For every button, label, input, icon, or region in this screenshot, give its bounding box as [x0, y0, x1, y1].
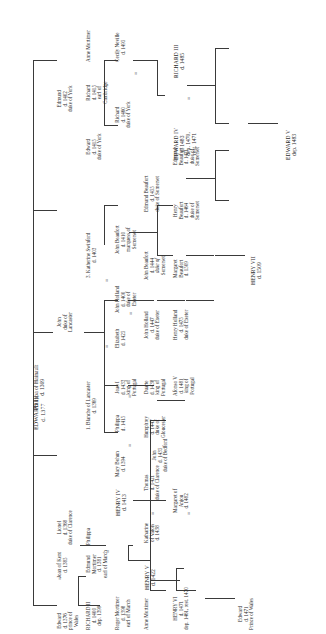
connector	[33, 60, 34, 210]
person-title: Exeter	[132, 286, 138, 313]
person-edmund-duke-of-york: Edmund d. 1402 duke of York	[57, 86, 74, 112]
person-name: Anne Mortimer	[144, 598, 150, 630]
person-john-of-gaunt: John duke of Lancaster	[57, 312, 74, 332]
connector	[33, 455, 57, 456]
person-anne-mortimer: Anne Mortimer	[144, 598, 150, 630]
connector	[80, 545, 106, 546]
person-margaret-beaufort: Margaret Beaufort d. 1509	[173, 259, 190, 278]
marriage-sign: =	[133, 72, 139, 75]
connector	[150, 500, 166, 501]
person-title: earl of March	[126, 597, 132, 630]
connector	[215, 150, 229, 151]
person-dates: d. 1403	[92, 233, 98, 278]
connector	[157, 205, 158, 255]
marriage-sign: =	[104, 279, 110, 282]
person-title: duke of Clarence	[68, 510, 74, 545]
person-dates: d. 1485	[179, 45, 185, 78]
connector	[33, 455, 34, 605]
person-dates: d. 1495	[121, 32, 127, 62]
connector	[133, 60, 157, 61]
connector	[176, 568, 184, 569]
person-title: duke of Exeter	[155, 310, 161, 340]
connector	[133, 500, 150, 501]
person-title: duke of York	[68, 86, 74, 112]
person-richard-ii: RICHARD II d. 1400 dep. 1399	[86, 601, 103, 630]
person-dates: dep. 1461, rest. 1470	[184, 587, 190, 630]
person-title: Gloucester	[161, 416, 167, 438]
connector	[186, 178, 215, 179]
person-title: Somerset	[132, 225, 138, 254]
person-katherine-swinford: 3. Katherine Swinford d. 1403	[86, 233, 97, 278]
person-title: duke of York	[97, 134, 103, 160]
connector	[33, 332, 53, 333]
person-title: Portugal	[132, 379, 138, 396]
person-title: Lancaster	[68, 312, 74, 332]
connector	[150, 590, 166, 591]
connector	[215, 255, 245, 256]
person-dates: d. 1422	[150, 565, 156, 590]
person-name: Philippa	[86, 528, 92, 545]
person-dates: dep. 1399	[97, 601, 103, 630]
person-john-holland-d1447: John Holland d. 1447 duke of Exeter	[144, 310, 161, 340]
connector	[78, 576, 79, 605]
person-anne-mortimer-york: Anne Mortimer	[86, 30, 92, 62]
marriage-sign: =	[186, 97, 192, 100]
connector	[33, 60, 57, 61]
connector	[157, 95, 165, 96]
connector	[186, 300, 214, 301]
person-richard-earl-of-cambridge: Richard d. 1415 earl of Cambridge	[86, 81, 108, 104]
connector	[248, 123, 278, 124]
person-title: Wales	[74, 612, 80, 630]
connector	[215, 200, 229, 201]
person-dates: d. 1438	[155, 523, 161, 543]
person-dates: dep. 1483	[291, 130, 297, 160]
person-title: Somerset	[161, 251, 167, 280]
connector	[128, 560, 150, 561]
person-dates: d. 1509	[184, 259, 190, 278]
person-katharine-of-valois: Katharine of Valois d. 1438	[144, 523, 161, 543]
connector	[215, 48, 216, 123]
person-joao-i: Joao I d. 1433 king of Portugal	[115, 379, 137, 396]
connector	[33, 605, 57, 606]
marriage-sign: =	[104, 345, 110, 348]
person-joan-of-kent: Joan of Kent d. 1385	[57, 552, 68, 578]
person-john-beaufort-duke: John Beaufort d. 1444 duke of Somerset	[144, 251, 166, 280]
connector	[84, 332, 104, 333]
person-title: duke of York	[126, 102, 132, 128]
person-henry-vii: HENRY VII d. 1509	[250, 256, 262, 285]
person-title: Cambridge	[103, 81, 109, 104]
person-title: Portugal	[190, 376, 196, 396]
person-dates: d. 1394	[121, 451, 127, 477]
person-edmund-beaufort-d1471: Edmund Beaufort d. 1471 duke of Somerset	[173, 147, 201, 166]
connector	[205, 598, 235, 599]
person-richard-duke-of-york: Richard d. 1460 duke of York	[115, 102, 132, 128]
connector	[104, 205, 118, 206]
person-elizabeth-of-lancaster: Elizabeth d. 1425	[115, 329, 126, 348]
person-edward-v: EDWARD V dep. 1483	[285, 130, 297, 160]
person-title: Somerset	[195, 201, 201, 220]
person-edward-black-prince: Edward d. 1376 prince of Wales	[57, 612, 79, 630]
person-title: duke of Somerset	[155, 176, 161, 212]
person-title: duke of Bedford	[163, 439, 169, 472]
connector	[215, 150, 216, 200]
connector	[104, 432, 118, 433]
family-tree-diagram: = = = = = = = = = = = = EDWARD III d. 13…	[0, 0, 326, 634]
person-philippa-of-clarence: Philippa	[86, 528, 92, 545]
marriage-sign: =	[150, 512, 156, 515]
connector	[215, 48, 229, 49]
person-henry-v: HENRY V d. 1422	[144, 565, 156, 590]
person-duarte: Duarte d. 1438 king of Portugal	[144, 379, 166, 396]
person-dates: d. 1509	[256, 256, 262, 285]
person-title: duke of Exeter	[184, 310, 190, 340]
person-john-beaufort-marquess: John Beaufort d. 1410 marquess of Somers…	[115, 225, 137, 254]
person-dates: d. 1413	[121, 489, 127, 516]
person-title: earl of March	[103, 550, 109, 578]
person-henry-iv: HENRY IV d. 1413	[115, 489, 127, 516]
person-dates: d. 1482	[184, 489, 190, 513]
connector	[187, 85, 215, 86]
marriage-sign: =	[127, 444, 133, 447]
connector	[104, 300, 105, 432]
connector	[157, 60, 158, 95]
person-henry-beaufort: Henry Beaufort d. 1464 duke of Somerset	[173, 201, 201, 220]
person-blanche-of-lancaster: 1. Blanche of Lancaster d. 1369	[86, 382, 97, 430]
